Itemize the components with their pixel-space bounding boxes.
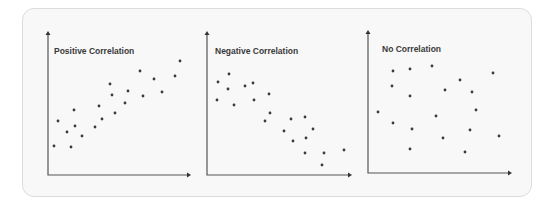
data-point	[101, 118, 104, 121]
data-point	[304, 116, 307, 119]
y-axis-arrow-icon	[366, 30, 371, 34]
data-point	[377, 111, 380, 114]
data-point	[492, 72, 495, 75]
chart-title: Negative Correlation	[215, 46, 298, 56]
data-point	[53, 145, 56, 148]
data-point	[442, 137, 445, 140]
positive-correlation-chart: Positive Correlation	[46, 31, 192, 178]
x-axis-arrow-icon	[348, 173, 352, 178]
data-point	[444, 89, 447, 92]
data-point	[392, 122, 395, 125]
data-point	[469, 129, 472, 132]
negative-correlation-chart: Negative Correlation	[205, 31, 353, 178]
scatter-plots: Positive Correlation Negative Correlatio…	[0, 0, 556, 204]
data-point	[268, 93, 271, 96]
data-point	[161, 91, 164, 94]
data-point	[252, 82, 255, 85]
data-point	[74, 125, 77, 128]
data-point	[57, 120, 60, 123]
data-point	[409, 148, 412, 151]
data-point	[292, 140, 295, 143]
data-point	[233, 104, 236, 107]
data-point	[127, 90, 130, 93]
data-point	[98, 105, 101, 108]
data-point	[283, 130, 286, 133]
data-point	[94, 126, 97, 129]
data-point	[109, 83, 112, 86]
data-point	[111, 94, 114, 97]
data-point	[124, 102, 127, 105]
y-axis-arrow-icon	[46, 31, 51, 35]
chart-title: No Correlation	[382, 44, 441, 54]
data-point	[312, 128, 315, 131]
data-point	[174, 75, 177, 78]
data-point	[216, 99, 219, 102]
data-point	[66, 131, 69, 134]
data-point	[435, 115, 438, 118]
data-point	[269, 112, 272, 115]
data-point	[114, 112, 117, 115]
data-point	[391, 85, 394, 88]
no-correlation-chart: No Correlation	[366, 30, 513, 176]
chart-title: Positive Correlation	[54, 46, 134, 56]
data-point	[227, 88, 230, 91]
data-point	[475, 109, 478, 112]
data-point	[305, 137, 308, 140]
x-axis-arrow-icon	[508, 171, 512, 176]
data-point	[70, 146, 73, 149]
data-point	[323, 152, 326, 155]
x-axis-arrow-icon	[187, 173, 191, 178]
data-point	[179, 60, 182, 63]
data-point	[411, 128, 414, 131]
data-point	[81, 135, 84, 138]
data-point	[73, 109, 76, 112]
y-axis-arrow-icon	[205, 31, 210, 35]
data-point	[264, 120, 267, 123]
data-point	[471, 91, 474, 94]
data-point	[392, 70, 395, 73]
data-point	[464, 151, 467, 154]
data-point	[217, 81, 220, 84]
axis-lines	[368, 33, 508, 173]
data-point	[459, 79, 462, 82]
data-point	[431, 65, 434, 68]
data-point	[253, 99, 256, 102]
data-point	[139, 70, 142, 73]
data-point	[304, 152, 307, 155]
data-point	[228, 73, 231, 76]
data-point	[409, 68, 412, 71]
data-point	[409, 95, 412, 98]
data-point	[153, 78, 156, 81]
data-point	[290, 118, 293, 121]
data-point	[498, 135, 501, 138]
data-point	[321, 164, 324, 167]
data-point	[244, 85, 247, 88]
data-point	[343, 149, 346, 152]
data-point	[142, 95, 145, 98]
